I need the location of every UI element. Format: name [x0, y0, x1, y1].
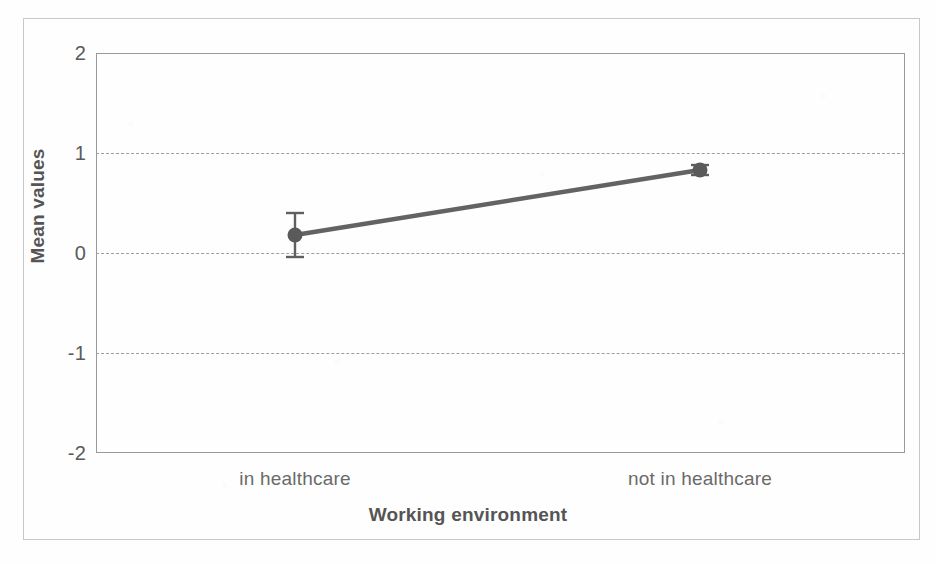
y-tick-label-neg2: -2 [24, 442, 86, 465]
gridline-1 [96, 153, 905, 154]
gridline-neg1 [96, 353, 905, 354]
x-tick-label-not-in-healthcare: not in healthcare [628, 468, 772, 490]
plot-area [96, 53, 905, 453]
y-tick-label-neg1: -1 [24, 342, 86, 365]
y-axis-title: Mean values [27, 106, 49, 306]
x-tick-label-in-healthcare: in healthcare [239, 468, 350, 490]
x-axis-title: Working environment [0, 504, 936, 526]
figure-root: 2 1 0 -1 -2 Mean values in healthcare no… [0, 0, 936, 564]
y-tick-label-2: 2 [24, 42, 86, 65]
gridline-0 [96, 253, 905, 254]
